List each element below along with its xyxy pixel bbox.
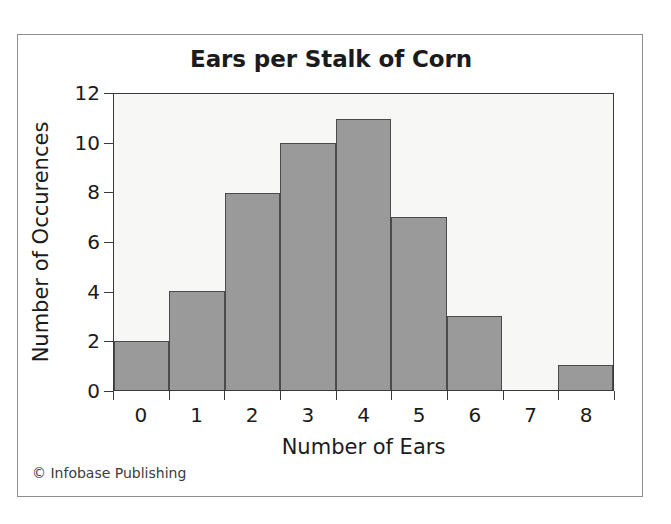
x-tick-mark (558, 391, 559, 400)
y-tick-mark (104, 192, 113, 193)
y-tick-label: 10 (75, 131, 100, 155)
y-axis-title-label: Number of Occurences (29, 122, 53, 363)
bar-cell (280, 94, 335, 390)
y-tick-label: 2 (87, 329, 100, 353)
x-tick-label: 1 (169, 403, 225, 427)
copyright-notice: © Infobase Publishing (32, 465, 186, 481)
x-tick-label: 8 (558, 403, 614, 427)
x-tick-mark (614, 391, 615, 400)
x-axis-title: Number of Ears (113, 435, 614, 459)
bar-1[interactable] (169, 291, 224, 390)
bar-4[interactable] (336, 119, 391, 390)
bar-cell (336, 94, 391, 390)
bar-6[interactable] (447, 316, 502, 390)
x-tick-mark (447, 391, 448, 400)
x-tick-mark (224, 391, 225, 400)
y-tick-mark (104, 341, 113, 342)
x-tick-label: 7 (503, 403, 559, 427)
bar-cell (225, 94, 280, 390)
y-tick-label: 0 (87, 379, 100, 403)
y-tick-mark (104, 242, 113, 243)
chart-title: Ears per Stalk of Corn (18, 46, 644, 72)
bar-cell (502, 94, 557, 390)
bar-0[interactable] (114, 341, 169, 390)
x-tick-mark (391, 391, 392, 400)
x-tick-mark (336, 391, 337, 400)
bar-cell (114, 94, 169, 390)
bar-cell (447, 94, 502, 390)
y-tick-mark (104, 143, 113, 144)
x-tick-label: 3 (280, 403, 336, 427)
bars-layer (114, 94, 613, 390)
x-tick-label: 4 (336, 403, 392, 427)
bar-cell (169, 94, 224, 390)
y-tick-label: 12 (75, 81, 100, 105)
x-axis-tick-labels: 012345678 (113, 403, 614, 427)
bar-cell (391, 94, 446, 390)
x-tick-mark (169, 391, 170, 400)
bar-3[interactable] (280, 143, 335, 390)
x-tick-mark (280, 391, 281, 400)
x-tick-mark (503, 391, 504, 400)
x-tick-label: 5 (391, 403, 447, 427)
y-tick-mark (104, 292, 113, 293)
bar-8[interactable] (558, 365, 613, 390)
bar-2[interactable] (225, 193, 280, 390)
bar-5[interactable] (391, 217, 446, 390)
y-axis-title: Number of Occurences (25, 93, 57, 391)
plot-area (113, 93, 614, 391)
figure-frame: Ears per Stalk of Corn Number of Occuren… (17, 34, 643, 497)
y-tick-label: 6 (87, 230, 100, 254)
x-tick-mark (113, 391, 114, 400)
y-tick-label: 8 (87, 180, 100, 204)
x-tick-label: 0 (113, 403, 169, 427)
y-tick-label: 4 (87, 280, 100, 304)
x-tick-label: 2 (224, 403, 280, 427)
bar-cell (558, 94, 613, 390)
y-tick-mark (104, 93, 113, 94)
y-tick-mark (104, 391, 113, 392)
x-tick-label: 6 (447, 403, 503, 427)
